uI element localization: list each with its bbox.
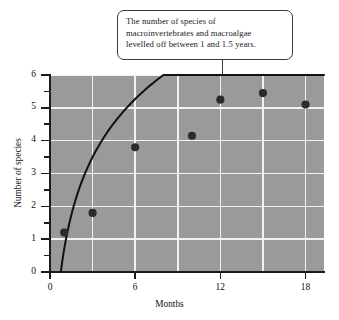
y-tick-major bbox=[41, 206, 50, 208]
gridline-vertical bbox=[262, 75, 264, 272]
plot-area bbox=[50, 75, 324, 272]
gridline-vertical bbox=[305, 75, 307, 272]
y-tick-label: 0 bbox=[14, 266, 36, 276]
y-tick-minor bbox=[44, 255, 50, 257]
x-tick-label: 0 bbox=[38, 282, 62, 292]
annotation-callout: The number of species of macroinvertebra… bbox=[117, 10, 293, 60]
x-tick-label: 18 bbox=[294, 282, 318, 292]
y-tick-minor bbox=[44, 189, 50, 191]
y-tick-major bbox=[41, 173, 50, 175]
y-tick-minor bbox=[44, 123, 50, 125]
x-tick-major bbox=[49, 272, 51, 279]
annotation-callout-line-2: macroinvertebrates and macroalgae bbox=[126, 28, 285, 40]
y-tick-major bbox=[41, 107, 50, 109]
gridline-vertical bbox=[220, 75, 222, 272]
y-tick-label: 6 bbox=[14, 69, 36, 79]
y-tick-major bbox=[41, 238, 50, 240]
x-tick-label: 12 bbox=[208, 282, 232, 292]
gridline-vertical bbox=[134, 75, 136, 272]
x-axis-title: Months bbox=[0, 299, 339, 309]
y-tick-major bbox=[41, 74, 50, 76]
x-tick-major bbox=[134, 272, 136, 279]
annotation-callout-line-3: levelled off between 1 and 1.5 years. bbox=[126, 39, 285, 51]
x-tick-major bbox=[305, 272, 307, 279]
y-tick-minor bbox=[44, 156, 50, 158]
annotation-callout-line-1: The number of species of bbox=[126, 16, 285, 28]
chart-figure: The number of species of macroinvertebra… bbox=[0, 0, 339, 320]
y-tick-major bbox=[41, 140, 50, 142]
y-tick-minor bbox=[44, 222, 50, 224]
y-tick-minor bbox=[44, 91, 50, 93]
x-axis-line bbox=[49, 271, 325, 273]
y-axis-title: Number of species bbox=[13, 103, 23, 243]
x-tick-major bbox=[220, 272, 222, 279]
gridline-vertical bbox=[92, 75, 94, 272]
gridline-vertical bbox=[177, 75, 179, 272]
x-tick-label: 6 bbox=[123, 282, 147, 292]
